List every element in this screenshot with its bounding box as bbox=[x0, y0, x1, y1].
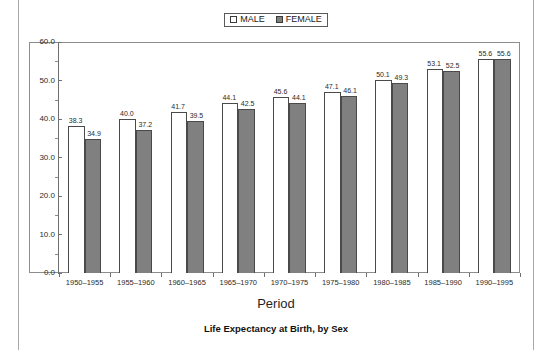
bar-value-label: 53.1 bbox=[427, 60, 441, 67]
bar-pair: 40.037.2 bbox=[119, 42, 152, 273]
bar-male: 38.3 bbox=[68, 126, 85, 273]
legend-label-female: FEMALE bbox=[286, 15, 322, 24]
bar-group: 50.149.3 bbox=[366, 42, 417, 273]
bar-male: 40.0 bbox=[119, 119, 136, 273]
x-axis-category-label: 1985–1990 bbox=[418, 279, 469, 287]
bar-value-label: 46.1 bbox=[343, 87, 357, 94]
bar-group: 47.146.1 bbox=[315, 42, 366, 273]
bar-pair: 45.644.1 bbox=[273, 42, 306, 273]
x-axis-tick bbox=[315, 273, 366, 277]
y-axis-tick-label: 60.0 bbox=[39, 38, 58, 46]
x-axis-title: Period bbox=[0, 296, 552, 311]
bar-female: 46.1 bbox=[341, 96, 358, 273]
bar-group: 41.739.5 bbox=[161, 42, 212, 273]
bar-male: 41.7 bbox=[171, 112, 188, 273]
bar-value-label: 45.6 bbox=[274, 88, 288, 95]
bar-female: 39.5 bbox=[187, 121, 204, 273]
bar-value-label: 55.6 bbox=[479, 50, 493, 57]
y-axis-minor-tick bbox=[55, 61, 58, 62]
bar-pair: 47.146.1 bbox=[324, 42, 357, 273]
x-axis-tick bbox=[213, 273, 264, 277]
bar-value-label: 41.7 bbox=[171, 103, 185, 110]
bar-value-label: 42.5 bbox=[241, 100, 255, 107]
legend-box: MALE FEMALE bbox=[224, 13, 328, 27]
x-axis-tick bbox=[418, 273, 469, 277]
bar-pair: 38.334.9 bbox=[68, 42, 101, 273]
bar-male: 53.1 bbox=[427, 69, 444, 273]
bar-group: 45.644.1 bbox=[264, 42, 315, 273]
legend-swatch-male-icon bbox=[230, 16, 237, 23]
bar-male: 50.1 bbox=[375, 80, 392, 273]
x-axis-tick bbox=[264, 273, 315, 277]
legend-swatch-female-icon bbox=[276, 16, 283, 23]
x-axis-tick-mark bbox=[469, 273, 470, 277]
y-axis-tick-label: 10.0 bbox=[39, 230, 58, 238]
x-axis-tick bbox=[161, 273, 212, 277]
y-axis-minor-tick bbox=[55, 138, 58, 139]
legend-item-female: FEMALE bbox=[276, 15, 322, 24]
x-axis-tick-mark bbox=[366, 273, 367, 277]
bar-value-label: 39.5 bbox=[190, 112, 204, 119]
bar-value-label: 52.5 bbox=[446, 62, 460, 69]
x-axis-tick-mark bbox=[520, 273, 521, 277]
x-axis-tick-mark bbox=[264, 273, 265, 277]
bar-pair: 50.149.3 bbox=[375, 42, 408, 273]
y-axis-minor-tick bbox=[55, 100, 58, 101]
bar-value-label: 47.1 bbox=[325, 83, 339, 90]
x-axis-tick-mark bbox=[110, 273, 111, 277]
bar-value-label: 40.0 bbox=[120, 110, 134, 117]
bar-pair: 41.739.5 bbox=[171, 42, 204, 273]
legend-label-male: MALE bbox=[240, 15, 265, 24]
bar-male: 47.1 bbox=[324, 92, 341, 273]
bar-female: 49.3 bbox=[392, 83, 409, 273]
y-axis-tick-label: 20.0 bbox=[39, 192, 58, 200]
bar-group: 40.037.2 bbox=[110, 42, 161, 273]
bar-groups: 38.334.940.037.241.739.544.142.545.644.1… bbox=[59, 42, 520, 273]
legend-item-male: MALE bbox=[230, 15, 265, 24]
bar-pair: 44.142.5 bbox=[222, 42, 255, 273]
bar-value-label: 38.3 bbox=[69, 117, 83, 124]
x-axis-category-label: 1975–1980 bbox=[315, 279, 366, 287]
chart-legend: MALE FEMALE bbox=[0, 13, 552, 27]
bar-value-label: 50.1 bbox=[376, 71, 390, 78]
y-axis: 60.050.040.030.020.010.00.0 bbox=[29, 42, 58, 273]
bar-male: 44.1 bbox=[222, 103, 239, 273]
y-axis-tick-label: 40.0 bbox=[39, 115, 58, 123]
x-axis-tick bbox=[59, 273, 110, 277]
bar-male: 45.6 bbox=[273, 97, 290, 273]
bar-group: 44.142.5 bbox=[213, 42, 264, 273]
y-axis-tick-label: 30.0 bbox=[39, 153, 58, 161]
bar-group: 38.334.9 bbox=[59, 42, 110, 273]
x-axis-category-label: 1950–1955 bbox=[59, 279, 110, 287]
bar-group: 55.655.6 bbox=[469, 42, 520, 273]
bar-value-label: 49.3 bbox=[395, 74, 409, 81]
bar-female: 42.5 bbox=[238, 109, 255, 273]
y-axis-minor-tick bbox=[55, 254, 58, 255]
x-axis-tick bbox=[469, 273, 520, 277]
bar-female: 37.2 bbox=[136, 130, 153, 273]
x-axis-category-label: 1990–1995 bbox=[469, 279, 520, 287]
x-axis-tick-mark bbox=[213, 273, 214, 277]
x-axis-tick-mark bbox=[161, 273, 162, 277]
bar-female: 44.1 bbox=[289, 103, 306, 273]
bar-value-label: 44.1 bbox=[292, 94, 306, 101]
bar-value-label: 34.9 bbox=[87, 130, 101, 137]
y-axis-tick-label: 50.0 bbox=[39, 76, 58, 84]
x-axis-category-label: 1980–1985 bbox=[366, 279, 417, 287]
x-axis-tick-mark bbox=[59, 273, 60, 277]
bar-value-label: 44.1 bbox=[222, 94, 236, 101]
y-axis-minor-tick bbox=[55, 215, 58, 216]
x-axis-category-label: 1955–1960 bbox=[110, 279, 161, 287]
bar-group: 53.152.5 bbox=[418, 42, 469, 273]
bar-value-label: 55.6 bbox=[497, 50, 511, 57]
y-axis-minor-tick bbox=[55, 177, 58, 178]
bar-value-label: 37.2 bbox=[138, 121, 152, 128]
bar-pair: 53.152.5 bbox=[427, 42, 460, 273]
chart-title: Life Expectancy at Birth, by Sex bbox=[0, 323, 552, 334]
x-axis-category-label: 1965–1970 bbox=[213, 279, 264, 287]
x-axis-category-label: 1970–1975 bbox=[264, 279, 315, 287]
x-axis-tick bbox=[366, 273, 417, 277]
x-axis-labels: 1950–19551955–19601960–19651965–19701970… bbox=[59, 279, 520, 287]
bar-female: 34.9 bbox=[85, 139, 102, 273]
x-axis-tick-mark bbox=[418, 273, 419, 277]
